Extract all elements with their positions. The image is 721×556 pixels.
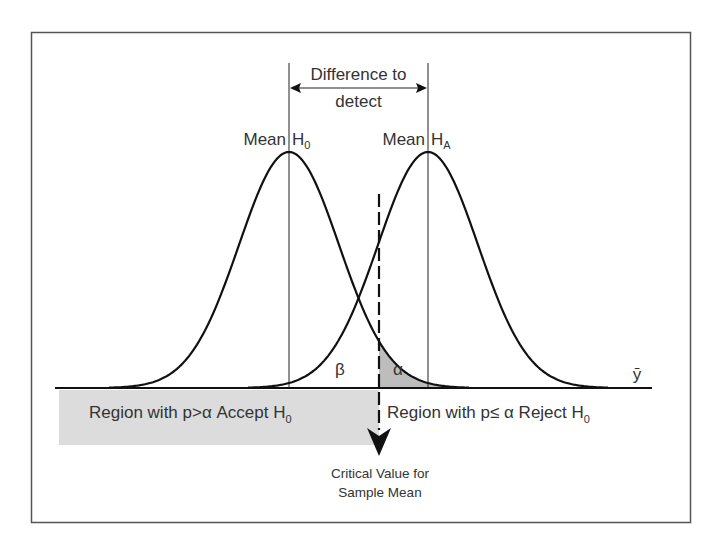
critical-value-caption-line2: Sample Mean	[338, 485, 421, 500]
alpha-label: α	[393, 360, 403, 379]
axis-variable-label: ȳ	[633, 365, 642, 384]
reject-region-label: Region with p≤ α Reject H0	[387, 403, 590, 425]
difference-label-line2: detect	[335, 92, 382, 111]
critical-value-caption-line1: Critical Value for	[331, 466, 430, 481]
accept-region-label: Region with p>α Accept H0	[89, 403, 292, 425]
mean-ha-word: Mean	[382, 130, 425, 149]
mean-h0-word: Mean	[243, 130, 286, 149]
beta-label: β	[335, 360, 345, 379]
difference-label-line1: Difference to	[310, 65, 406, 84]
hypothesis-test-diagram: Difference to detect Mean H0 Mean HA β α…	[0, 0, 721, 556]
